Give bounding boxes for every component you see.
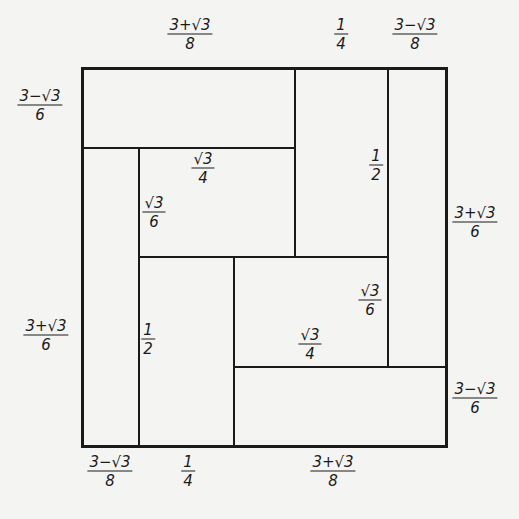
denominator: 8: [185, 35, 195, 52]
label-right-bottom-height: 3−√3 6: [452, 381, 497, 416]
denominator: 6: [149, 213, 159, 230]
label-center-right-height: √3 6: [358, 283, 381, 318]
numerator: 1: [181, 454, 195, 472]
numerator: 3+√3: [23, 318, 68, 336]
denominator: 8: [410, 35, 420, 52]
label-right-col-height: 1 2: [369, 148, 383, 183]
label-inner-left-height: √3 6: [142, 195, 165, 230]
numerator: 3−√3: [87, 454, 132, 472]
label-center-width: √3 4: [298, 327, 321, 362]
divider-v-left-inner: [138, 148, 140, 446]
denominator: 4: [305, 345, 315, 362]
label-bottom-mid-width: 1 4: [181, 454, 195, 489]
outer-square-bottom-edge: [82, 445, 447, 448]
outer-square-left-edge: [81, 67, 84, 448]
denominator: 6: [470, 223, 480, 240]
numerator: 3−√3: [392, 17, 437, 35]
denominator: 8: [328, 472, 338, 489]
numerator: 3+√3: [452, 205, 497, 223]
outer-square-top-edge: [82, 67, 447, 70]
label-inner-mid-height: 1 2: [141, 322, 155, 357]
denominator: 6: [365, 301, 375, 318]
label-top-right-width: 3−√3 8: [392, 17, 437, 52]
label-top-mid-width: 1 4: [334, 17, 348, 52]
denominator: 6: [35, 106, 45, 123]
label-inner-top-width: √3 4: [191, 151, 214, 186]
divider-h-bottom-right: [234, 366, 446, 368]
numerator: 3+√3: [310, 454, 355, 472]
denominator: 8: [105, 472, 115, 489]
numerator: 1: [369, 148, 383, 166]
numerator: √3: [142, 195, 165, 213]
label-right-outer-height: 3+√3 6: [452, 205, 497, 240]
numerator: 3+√3: [167, 17, 212, 35]
numerator: 3−√3: [452, 381, 497, 399]
numerator: √3: [298, 327, 321, 345]
label-left-outer-height: 3+√3 6: [23, 318, 68, 353]
numerator: 3−√3: [17, 88, 62, 106]
divider-v-top-mid: [294, 68, 296, 258]
denominator: 6: [470, 399, 480, 416]
denominator: 4: [336, 35, 346, 52]
outer-square-right-edge: [445, 67, 448, 448]
label-left-top-height: 3−√3 6: [17, 88, 62, 123]
denominator: 2: [143, 340, 153, 357]
denominator: 4: [183, 472, 193, 489]
divider-h-top-left: [82, 147, 296, 149]
numerator: 1: [334, 17, 348, 35]
divider-v-top-right: [387, 68, 389, 368]
numerator: √3: [191, 151, 214, 169]
denominator: 2: [371, 166, 381, 183]
square-dissection-diagram: 3+√3 8 1 4 3−√3 8 3−√3 6 √3 4 √3 6 1 2 3…: [0, 0, 519, 519]
label-bottom-left-width: 3−√3 8: [87, 454, 132, 489]
divider-v-bottom-mid: [233, 257, 235, 446]
numerator: 1: [141, 322, 155, 340]
denominator: 4: [198, 169, 208, 186]
label-top-left-width: 3+√3 8: [167, 17, 212, 52]
denominator: 6: [41, 336, 51, 353]
numerator: √3: [358, 283, 381, 301]
divider-h-middle: [139, 256, 389, 258]
label-bottom-right-width: 3+√3 8: [310, 454, 355, 489]
